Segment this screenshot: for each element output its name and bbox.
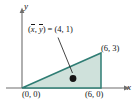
- figure-container: y x (0, 0) (6, 0) (6, 3) (x, y) = (4, 1): [0, 0, 136, 109]
- y-bar-symbol: y: [39, 25, 43, 34]
- centroid-leader-line: [58, 38, 73, 74]
- centroid-dot: [70, 75, 77, 82]
- x-axis-label: x: [127, 83, 131, 92]
- centroid-callout-label: (x, y) = (4, 1): [28, 25, 73, 34]
- y-axis-label: y: [24, 2, 28, 11]
- x-bar-symbol: x: [31, 25, 35, 34]
- centroid-label-value: ) = (4, 1): [43, 24, 73, 34]
- triangular-region: [22, 53, 101, 88]
- vertex-label-origin: (0, 0): [22, 90, 40, 99]
- vertex-label-apex: (6, 3): [101, 44, 119, 53]
- vertex-label-base-right: (6, 0): [85, 90, 103, 99]
- coordinate-plane-figure: [0, 0, 136, 109]
